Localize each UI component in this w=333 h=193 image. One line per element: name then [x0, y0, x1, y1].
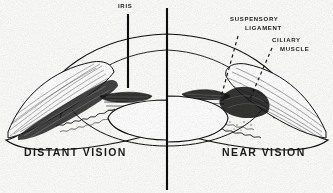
label-muscle: MUSCLE — [280, 46, 310, 52]
caption-near-vision: NEAR VISION — [222, 147, 306, 158]
label-ciliary: CILIARY — [272, 37, 301, 43]
label-iris: IRIS — [118, 3, 132, 9]
caption-distant-vision: DISTANT VISION — [24, 147, 127, 158]
eye-linework — [6, 8, 328, 190]
eye-accommodation-diagram: IRIS SUSPENSORY LIGAMENT CILIARY MUSCLE … — [0, 0, 333, 193]
lens-right-half-rounded — [167, 96, 228, 142]
diagram-canvas — [0, 0, 333, 193]
label-ligament: LIGAMENT — [245, 25, 282, 31]
label-suspensory: SUSPENSORY — [230, 16, 278, 22]
